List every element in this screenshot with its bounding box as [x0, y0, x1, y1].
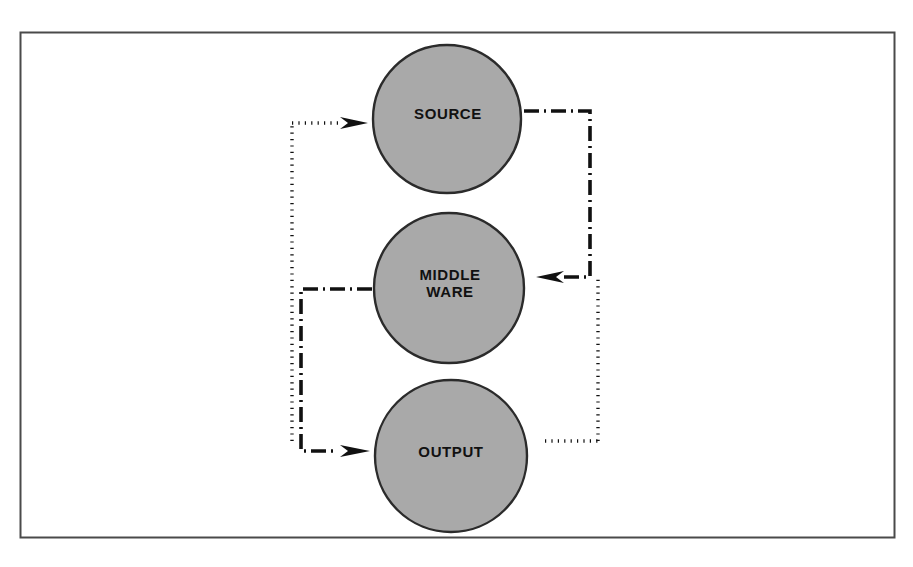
- edge-middleware-to-output: [301, 289, 372, 457]
- diagram-canvas: SOURCE MIDDLE WARE OUTPUT: [0, 0, 913, 567]
- arrow-into-source-icon: [340, 117, 368, 129]
- edge-middleware-to-output-segment: [301, 289, 372, 451]
- diagram-svg: [0, 0, 913, 567]
- arrow-into-output-icon: [340, 445, 370, 457]
- node-source[interactable]: [373, 45, 521, 193]
- node-output[interactable]: [375, 380, 527, 532]
- node-middleware[interactable]: [374, 213, 524, 363]
- edge-source-to-middleware-segment: [524, 111, 590, 277]
- edge-source-to-middleware: [524, 111, 590, 283]
- arrow-into-middleware-icon: [536, 271, 564, 283]
